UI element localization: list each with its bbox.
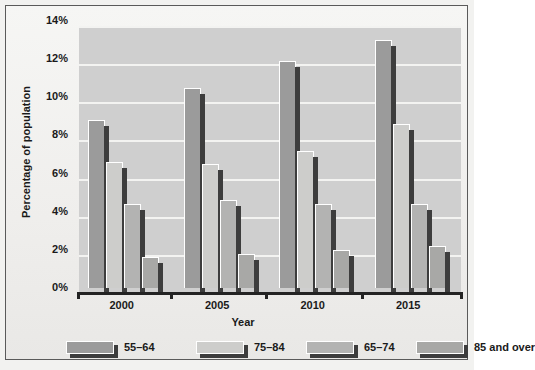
x-axis-title: Year <box>6 316 480 328</box>
bar-shadow <box>349 256 354 294</box>
bar-2000-series-0 <box>88 120 105 288</box>
bar-2005-series-3 <box>238 254 255 288</box>
bar-2005-series-1 <box>202 164 219 288</box>
legend-item: 55–64 <box>66 336 155 358</box>
chart-legend: 55–6475–8465–7485 and over <box>16 336 470 362</box>
legend-swatch-shadow-right <box>354 345 358 358</box>
legend-swatch-shadow <box>200 354 248 358</box>
legend-swatch-shadow <box>310 354 358 358</box>
legend-swatch <box>196 341 244 354</box>
y-axis-origin-tick <box>77 292 80 299</box>
legend-swatch-shadow-right <box>244 345 248 358</box>
legend-swatch <box>66 341 114 354</box>
bar-shadow <box>254 260 259 294</box>
legend-swatch-shadow <box>420 354 468 358</box>
bar-2015-series-3 <box>429 246 446 288</box>
bar-2010-series-2 <box>315 204 332 288</box>
x-tick-label: 2000 <box>92 299 152 311</box>
legend-label: 75–84 <box>254 341 285 353</box>
legend-swatch <box>416 341 464 354</box>
legend-swatch-shadow-right <box>114 345 118 358</box>
gridline <box>79 102 461 104</box>
bar-shadow <box>445 252 450 294</box>
gridline <box>79 64 461 66</box>
legend-item: 75–84 <box>196 336 285 358</box>
legend-swatch-shadow-right <box>464 345 468 358</box>
y-tick-label: 0% <box>20 281 68 293</box>
x-tick-label: 2015 <box>378 299 438 311</box>
legend-label: 65–74 <box>364 341 395 353</box>
legend-label: 85 and over <box>474 341 535 353</box>
bar-2015-series-2 <box>411 204 428 288</box>
x-tick-label: 2010 <box>283 299 343 311</box>
legend-swatch-shadow <box>70 354 118 358</box>
bar-2010-series-3 <box>333 250 350 288</box>
x-tick <box>265 292 268 299</box>
legend-label: 55–64 <box>124 341 155 353</box>
x-tick <box>170 292 173 299</box>
chart-frame: 0%2%4%6%8%10%12%14% 2000200520102015 Per… <box>5 5 468 360</box>
bar-2005-series-0 <box>184 88 201 288</box>
bar-2000-series-1 <box>106 162 123 288</box>
x-tick-label: 2005 <box>187 299 247 311</box>
x-axis-line <box>77 292 463 295</box>
legend-swatch <box>306 341 354 354</box>
bar-2010-series-0 <box>279 61 296 288</box>
bar-2015-series-0 <box>375 40 392 288</box>
x-axis-end-tick <box>460 292 463 299</box>
bar-2005-series-2 <box>220 200 237 288</box>
y-axis-title: Percentage of population <box>20 62 32 242</box>
legend-item: 65–74 <box>306 336 395 358</box>
bar-2000-series-2 <box>124 204 141 288</box>
legend-item: 85 and over <box>416 336 535 358</box>
bar-2000-series-3 <box>142 257 159 288</box>
x-tick <box>361 292 364 299</box>
bar-shadow <box>158 263 163 294</box>
gridline <box>79 26 461 28</box>
bar-2015-series-1 <box>393 124 410 288</box>
y-tick-label: 14% <box>20 14 68 26</box>
y-tick-label: 2% <box>20 243 68 255</box>
bar-2010-series-1 <box>297 151 314 288</box>
